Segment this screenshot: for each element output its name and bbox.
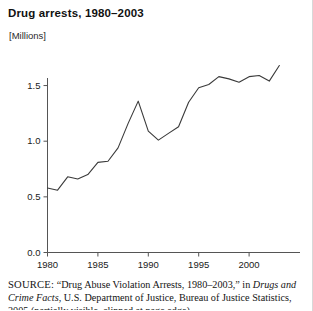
source-text-1a: “Drug Abuse Violation Arrests, 1980–2003… <box>54 279 253 290</box>
y-tick-label: 1.5 <box>11 80 41 91</box>
source-label: SOURCE: <box>8 279 54 290</box>
source-text-2b: , U.S. Department of Justice, Bureau of … <box>59 292 292 303</box>
y-tick-label: 0.0 <box>11 247 41 258</box>
y-axis-unit-label: [Millions] <box>9 30 46 41</box>
page-title: Drug arrests, 1980–2003 <box>8 7 144 19</box>
source-line-1: SOURCE: “Drug Abuse Violation Arrests, 1… <box>8 278 308 291</box>
x-tick-label: 2000 <box>229 259 269 270</box>
x-axis-ticks <box>48 253 250 257</box>
x-tick-label: 1990 <box>128 259 168 270</box>
source-italic-1: Drugs and <box>253 279 296 290</box>
y-axis-ticks <box>44 86 48 253</box>
source-italic-2: Crime Facts <box>8 292 59 303</box>
y-tick-label: 1.0 <box>11 135 41 146</box>
plot-area: 0.00.51.01.5 19801985199019952000 <box>0 48 313 263</box>
x-tick-label: 1980 <box>28 259 68 270</box>
source-note: SOURCE: “Drug Abuse Violation Arrests, 1… <box>8 278 308 310</box>
line-chart-svg <box>0 48 313 263</box>
x-tick-label: 1985 <box>78 259 118 270</box>
x-tick-label: 1995 <box>179 259 219 270</box>
y-tick-label: 0.5 <box>11 191 41 202</box>
chart-figure: Drug arrests, 1980–2003 [Millions] 0.00.… <box>0 0 313 311</box>
page-edge-divider <box>312 0 313 311</box>
source-line-2: Crime Facts, U.S. Department of Justice,… <box>8 291 308 304</box>
data-series-line <box>48 66 280 191</box>
source-line-3-clipped: 2005 (partially visible, clipped at page… <box>8 304 308 310</box>
